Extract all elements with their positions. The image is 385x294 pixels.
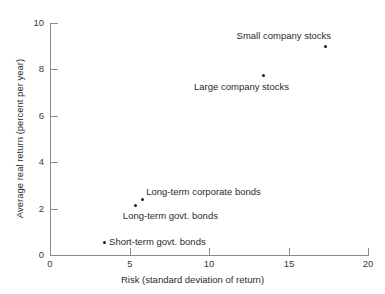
y-tick-mark-8 [51, 69, 58, 70]
data-label-long-term-govt-bonds: Long-term govt. bonds [123, 210, 218, 221]
x-axis-line [50, 255, 369, 256]
x-tick-mark-20 [368, 248, 369, 255]
data-label-long-term-corporate-bonds: Long-term corporate bonds [146, 186, 261, 197]
x-tick-mark-5 [130, 248, 131, 255]
x-tick-label-10: 10 [189, 258, 229, 269]
data-label-short-term-govt-bonds: Short-term govt. bonds [109, 236, 206, 247]
x-tick-label-0: 0 [30, 258, 70, 269]
x-tick-label-5: 5 [110, 258, 150, 269]
x-tick-label-20: 20 [348, 258, 385, 269]
x-tick-label-15: 15 [269, 258, 309, 269]
y-axis-line [50, 23, 51, 256]
data-point-small-company-stocks [324, 45, 327, 48]
data-point-long-term-corporate-bonds [141, 198, 144, 201]
x-axis-title: Risk (standard deviation of return) [0, 274, 385, 285]
data-point-large-company-stocks [262, 74, 265, 77]
y-tick-mark-6 [51, 116, 58, 117]
x-tick-mark-10 [209, 248, 210, 255]
y-tick-mark-4 [51, 162, 58, 163]
y-tick-mark-10 [51, 23, 58, 24]
scatter-chart: 10 8 6 4 2 0 0 5 10 15 20 Risk (standard… [0, 0, 385, 294]
y-tick-mark-2 [51, 209, 58, 210]
data-label-small-company-stocks: Small company stocks [0, 30, 331, 41]
y-axis-title: Average real return (percent per year) [14, 19, 25, 259]
data-point-short-term-govt-bonds [103, 241, 106, 244]
data-point-long-term-govt-bonds [134, 204, 137, 207]
data-label-large-company-stocks: Large company stocks [0, 81, 289, 92]
x-tick-mark-0 [50, 248, 51, 255]
x-tick-mark-15 [289, 248, 290, 255]
